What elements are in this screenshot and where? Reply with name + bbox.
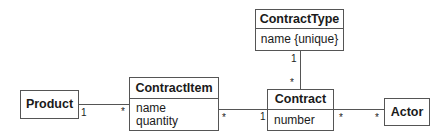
class-name: ContractType: [256, 10, 343, 28]
attribute: quantity: [136, 115, 218, 128]
class-contracttype: ContractType name {unique}: [255, 9, 344, 51]
attribute: number: [274, 110, 333, 131]
class-name: ContractItem: [130, 78, 218, 98]
association-contractitem-contract: [218, 109, 267, 110]
class-contractitem: ContractItem name quantity: [129, 77, 219, 131]
association-contracttype-contract: [300, 50, 301, 89]
multiplicity-label: *: [375, 113, 379, 123]
class-name: Contract: [268, 90, 333, 109]
multiplicity-label: 1: [81, 108, 87, 118]
class-attributes: name quantity: [130, 98, 218, 128]
multiplicity-label: *: [339, 113, 343, 123]
class-contract: Contract number: [267, 89, 334, 131]
multiplicity-label: 1: [291, 54, 297, 64]
multiplicity-label: *: [222, 113, 226, 123]
association-product-contractitem: [79, 104, 129, 105]
association-contract-actor: [333, 109, 384, 110]
class-actor: Actor: [384, 98, 430, 126]
class-attributes: number: [268, 109, 333, 131]
class-product: Product: [20, 90, 79, 119]
attribute: name {unique}: [256, 29, 343, 50]
multiplicity-label: 1: [260, 112, 266, 122]
multiplicity-label: *: [290, 78, 294, 88]
multiplicity-label: *: [121, 107, 125, 117]
class-name: Product: [21, 91, 78, 118]
class-attributes: name {unique}: [256, 28, 343, 50]
class-name: Actor: [385, 99, 429, 125]
